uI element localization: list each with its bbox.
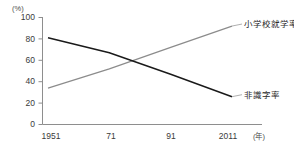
y-tick-label-20: 20 xyxy=(26,98,36,108)
y-tick-label-80: 80 xyxy=(26,34,36,44)
x-axis-unit-label: (年) xyxy=(253,131,265,141)
series-label-enrollment-rate: 小学校就学率 xyxy=(244,19,294,29)
y-tick-label-40: 40 xyxy=(26,76,36,86)
y-axis-ticks xyxy=(39,18,43,125)
series-line-enrollment-rate xyxy=(48,26,232,88)
y-tick-label-0: 0 xyxy=(30,119,35,129)
enrollment-label-leader-line xyxy=(232,24,242,26)
y-tick-label-100: 100 xyxy=(21,12,35,22)
chart-svg: (%) 100 80 60 40 20 0 1951 71 91 xyxy=(0,0,294,146)
y-tick-label-60: 60 xyxy=(26,55,36,65)
y-axis-tick-labels: 100 80 60 40 20 0 xyxy=(21,12,35,129)
illiteracy-label-leader-line xyxy=(232,95,242,97)
x-tick-label-1951: 1951 xyxy=(42,131,61,141)
x-tick-label-91: 91 xyxy=(166,131,176,141)
series-label-illiteracy-rate: 非識字率 xyxy=(244,90,280,100)
x-tick-label-2011: 2011 xyxy=(219,131,238,141)
x-tick-label-71: 71 xyxy=(106,131,116,141)
x-axis-tick-labels: 1951 71 91 2011 xyxy=(42,131,238,141)
line-chart: (%) 100 80 60 40 20 0 1951 71 91 xyxy=(0,0,294,146)
series-line-illiteracy-rate xyxy=(48,38,232,97)
